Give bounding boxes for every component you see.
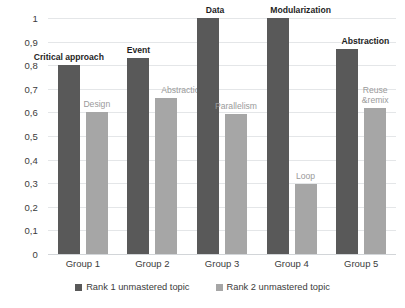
bar-rank2[interactable]: Loop (295, 184, 317, 254)
bar-rank1[interactable]: Abstraction (336, 49, 358, 254)
x-axis: Group 1Group 2Group 3Group 4Group 5 (48, 258, 396, 274)
legend-swatch-icon (75, 284, 82, 291)
bar-rank2[interactable]: Design (86, 112, 108, 254)
x-axis-tick-label: Group 1 (66, 258, 100, 269)
bar-group: EventAbstraction (119, 18, 185, 254)
bar-value-label: Abstraction (341, 36, 389, 46)
y-axis-tick-label: 0,7 (24, 83, 38, 94)
legend-label: Rank 2 unmastered topic (227, 282, 330, 292)
x-axis-tick-label: Group 2 (135, 258, 169, 269)
bar-rank2[interactable]: Parallelism (225, 114, 247, 254)
chart-legend: Rank 1 unmastered topicRank 2 unmastered… (0, 282, 405, 292)
bar-rank1[interactable]: Critical approach (58, 65, 80, 254)
y-axis-tick-label: 1 (33, 13, 38, 24)
bar-value-label: Design (83, 99, 110, 109)
bar-rank1[interactable]: Modularization (267, 18, 289, 254)
legend-entry[interactable]: Rank 2 unmastered topic (216, 282, 330, 292)
bar-group: AbstractionReuse &remix (328, 18, 394, 254)
x-axis-tick-label: Group 3 (205, 258, 239, 269)
legend-label: Rank 1 unmastered topic (86, 282, 189, 292)
gridline (48, 254, 396, 255)
bar-value-label: Modularization (270, 5, 331, 15)
bar-rank2[interactable]: Abstraction (155, 98, 177, 254)
y-axis-tick-label: 0,2 (24, 201, 38, 212)
x-axis-tick-label: Group 5 (344, 258, 378, 269)
bar-rank1[interactable]: Data (197, 18, 219, 254)
y-axis-tick-label: 0 (33, 249, 38, 260)
plot-area: Critical approachDesignEventAbstractionD… (48, 18, 396, 254)
y-axis-tick-label: 0,3 (24, 178, 38, 189)
bar-value-label: Event (127, 45, 150, 55)
bar-rank2[interactable]: Reuse &remix (364, 108, 386, 254)
bar-group: DataParallelism (189, 18, 255, 254)
x-axis-tick-label: Group 4 (274, 258, 308, 269)
bar-value-label: Critical approach (34, 52, 104, 62)
bar-group: ModularizationLoop (259, 18, 325, 254)
y-axis-tick-label: 0,6 (24, 107, 38, 118)
bar-value-label: Parallelism (215, 101, 257, 111)
bar-group: Critical approachDesign (50, 18, 116, 254)
y-axis-tick-label: 0,1 (24, 225, 38, 236)
y-axis-tick-label: 0,5 (24, 131, 38, 142)
y-axis-tick-label: 0,9 (24, 36, 38, 47)
bar-rank1[interactable]: Event (127, 58, 149, 254)
bar-value-label: Loop (296, 171, 315, 181)
bar-value-label: Reuse &remix (358, 85, 392, 105)
bar-chart: 00,10,20,30,40,50,60,70,80,91 Critical a… (0, 0, 405, 308)
legend-entry[interactable]: Rank 1 unmastered topic (75, 282, 189, 292)
legend-swatch-icon (216, 284, 223, 291)
y-axis-tick-label: 0,4 (24, 154, 38, 165)
bar-value-label: Data (206, 5, 225, 15)
